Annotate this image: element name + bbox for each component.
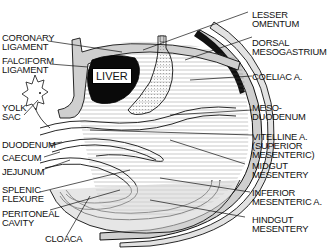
label-dorsal-mesogastrium: DORSAL MESOGASTRIUM — [252, 38, 327, 56]
label-cloaca: CLOACA — [45, 234, 82, 243]
label-jejunum: JEJUNUM — [2, 167, 44, 176]
label-peritoneal-cavity: PERITONEAL CAVITY — [2, 209, 59, 227]
label-lesser-omentum: LESSER OMENTUM — [252, 10, 299, 28]
label-falciform-ligament: FALCIFORM LIGAMENT — [2, 56, 54, 74]
label-caecum: CAECUM — [2, 153, 41, 162]
label-coronary-ligament: CORONARY LIGAMENT — [2, 33, 54, 51]
label-coeliac-artery: COELIAC A. — [252, 72, 302, 81]
label-yolk-sac: YOLK SAC — [2, 103, 26, 121]
label-splenic-flexure: SPLENIC FLEXURE — [2, 185, 44, 203]
label-inferior-mesenteric-artery: INFERIOR MESENTERIC A. — [252, 188, 322, 206]
label-duodenum: DUODENUM — [2, 140, 56, 149]
label-vitelline-artery: VITELLINE A. (SUPERIOR MESENTERIC) — [252, 132, 314, 159]
label-hindgut-mesentery: HINDGUT MESENTERY — [252, 215, 308, 233]
liver-label: LIVER — [92, 68, 132, 84]
label-midgut-mesentery: MIDGUT MESENTERY — [252, 161, 308, 179]
label-mesoduodenum: MESO- DUODENUM — [252, 103, 306, 121]
